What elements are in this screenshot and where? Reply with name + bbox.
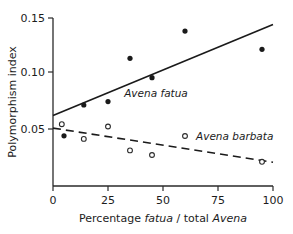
series-points-avena-barbata — [59, 122, 264, 164]
x-axis-title-italic-avena: Avena — [211, 212, 247, 225]
x-axis-title-pre: Percentage — [79, 212, 144, 225]
x-axis-ticks: 0 25 50 75 100 — [50, 186, 284, 207]
data-point-open — [150, 153, 155, 158]
data-point-open — [260, 159, 265, 164]
data-point-open — [59, 122, 64, 127]
data-point-filled — [81, 102, 86, 107]
data-point-open — [106, 124, 111, 129]
x-tick-label: 50 — [156, 194, 170, 207]
y-tick-label: 0.05 — [21, 123, 46, 136]
y-tick-label: 0.10 — [21, 66, 46, 79]
x-tick-label: 100 — [263, 194, 284, 207]
x-tick-label: 0 — [50, 194, 57, 207]
series-points-avena-fatua — [61, 29, 264, 139]
data-point-open — [128, 148, 133, 153]
x-axis-title-italic-fatua: fatua — [144, 212, 173, 225]
data-point-filled — [149, 75, 154, 80]
trendline-avena-fatua — [53, 24, 273, 115]
y-tick-label: 0.15 — [21, 12, 46, 25]
x-tick-label: 25 — [101, 194, 115, 207]
figure-scatter-polymorphism: 0.15 0.10 0.05 0 25 50 75 100 Polymorphi… — [0, 0, 293, 234]
chart-canvas: 0.15 0.10 0.05 0 25 50 75 100 Polymorphi… — [0, 0, 293, 234]
x-tick-label: 75 — [211, 194, 225, 207]
data-point-open — [81, 137, 86, 142]
x-axis-title-mid: / total — [173, 212, 212, 225]
series-label-avena-fatua: Avena fatua — [123, 87, 188, 99]
series-marker-avena-barbata — [183, 134, 188, 139]
y-axis-title: Polymorphism index — [6, 46, 19, 158]
y-axis-ticks: 0.15 0.10 0.05 — [21, 12, 54, 136]
data-point-filled — [105, 99, 110, 104]
data-point-filled — [61, 133, 66, 138]
data-point-filled — [259, 47, 264, 52]
data-point-filled — [127, 56, 132, 61]
x-axis-title: Percentage fatua / total Avena — [79, 212, 247, 225]
series-label-avena-barbata: Avena barbata — [195, 130, 273, 142]
data-point-filled — [182, 29, 187, 34]
